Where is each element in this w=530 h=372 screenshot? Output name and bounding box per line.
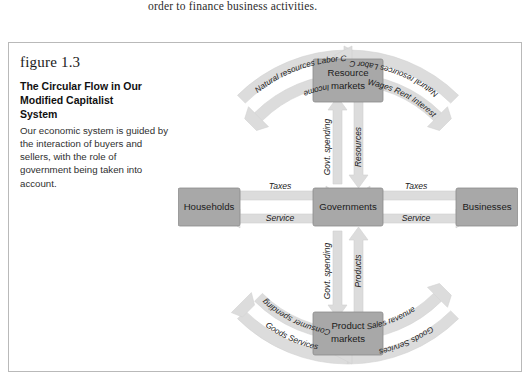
node-businesses-label: Businesses xyxy=(462,201,511,212)
node-governments-label: Governments xyxy=(319,201,377,212)
node-product-markets-label-1: Product xyxy=(331,320,364,331)
figure-title-line-1: The Circular Flow in Our xyxy=(20,80,170,94)
node-businesses[interactable]: Businesses xyxy=(456,188,518,226)
node-households[interactable]: Households xyxy=(178,188,240,226)
label-businesses-taxes: Taxes xyxy=(405,181,428,191)
diagram-nodes: Resource markets Households Governments … xyxy=(178,59,518,355)
figure-title-line-3: System xyxy=(20,108,170,122)
figure-description: Our economic system is guided by the int… xyxy=(20,124,170,190)
label-products-up: Products xyxy=(353,254,363,288)
circular-flow-diagram: Resource markets Households Governments … xyxy=(178,44,518,370)
label-govt-spending-down: Govt. spending xyxy=(322,242,332,299)
figure-title: The Circular Flow in Our Modified Capita… xyxy=(20,80,170,122)
node-resource-markets-label-2: markets xyxy=(331,80,365,91)
label-governments-service-right: Service xyxy=(402,213,431,223)
figure-title-line-2: Modified Capitalist xyxy=(20,94,170,108)
label-resources-down: Resources xyxy=(353,126,363,167)
figure-number-label: figure 1.3 xyxy=(20,54,170,71)
node-governments[interactable]: Governments xyxy=(313,188,383,226)
node-product-markets-label-2: markets xyxy=(331,333,365,344)
figure-caption: figure 1.3 The Circular Flow in Our Modi… xyxy=(20,54,170,190)
label-governments-service-left: Service xyxy=(266,213,295,223)
label-govt-spending-up: Govt. spending xyxy=(322,118,332,175)
node-households-label: Households xyxy=(184,201,235,212)
label-households-taxes: Taxes xyxy=(269,181,292,191)
body-text-above-figure: order to finance business activities. xyxy=(148,0,508,12)
